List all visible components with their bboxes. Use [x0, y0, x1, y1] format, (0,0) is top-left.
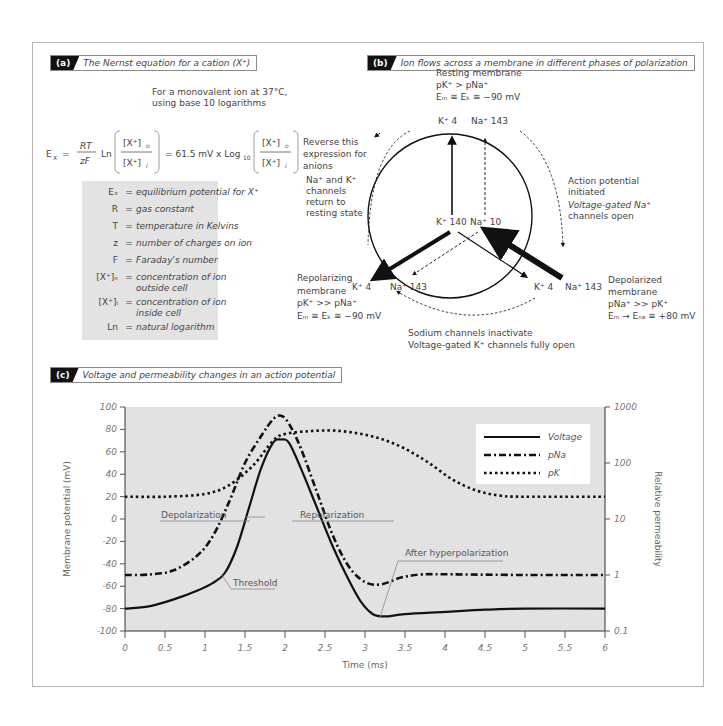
- svg-text:100: 100: [100, 402, 117, 412]
- svg-text:-40: -40: [102, 559, 117, 569]
- legend-label-pk: pK: [547, 468, 561, 478]
- y-axis-label: Membrane potential (mV): [62, 461, 72, 577]
- svg-text:6: 6: [602, 643, 608, 653]
- svg-text:Repolarization: Repolarization: [300, 510, 364, 520]
- svg-text:0: 0: [111, 514, 117, 524]
- svg-text:3: 3: [362, 643, 368, 653]
- svg-text:1: 1: [614, 570, 620, 580]
- svg-text:0.1: 0.1: [614, 626, 628, 636]
- svg-text:-80: -80: [102, 604, 117, 614]
- x-axis-label: Time (ms): [341, 660, 387, 670]
- svg-text:60: 60: [106, 447, 118, 457]
- svg-text:After hyperpolarization: After hyperpolarization: [405, 548, 508, 558]
- svg-text:1: 1: [202, 643, 208, 653]
- svg-text:10: 10: [614, 514, 626, 524]
- svg-text:5: 5: [522, 643, 528, 653]
- svg-text:4: 4: [442, 643, 448, 653]
- svg-text:Depolarization: Depolarization: [161, 510, 226, 520]
- svg-text:-100: -100: [97, 626, 118, 636]
- svg-text:Threshold: Threshold: [232, 578, 277, 588]
- svg-text:1000: 1000: [614, 402, 637, 412]
- svg-text:40: 40: [106, 469, 118, 479]
- svg-text:1.5: 1.5: [238, 643, 253, 653]
- y2-axis-label: Relative permeability: [653, 471, 663, 568]
- svg-text:80: 80: [106, 424, 118, 434]
- svg-text:3.5: 3.5: [398, 643, 413, 653]
- legend-label-voltage: Voltage: [548, 432, 582, 442]
- svg-text:100: 100: [614, 458, 631, 468]
- action-potential-chart: 00.511.522.533.544.555.56100806040200-20…: [0, 0, 723, 726]
- svg-text:5.5: 5.5: [558, 643, 573, 653]
- svg-text:-20: -20: [102, 536, 117, 546]
- svg-text:0.5: 0.5: [158, 643, 173, 653]
- svg-text:4.5: 4.5: [478, 643, 493, 653]
- svg-text:20: 20: [106, 492, 118, 502]
- svg-text:0: 0: [122, 643, 128, 653]
- svg-text:2: 2: [282, 643, 288, 653]
- legend-label-pna: pNa: [547, 450, 566, 460]
- svg-text:2.5: 2.5: [318, 643, 333, 653]
- svg-text:-60: -60: [102, 581, 117, 591]
